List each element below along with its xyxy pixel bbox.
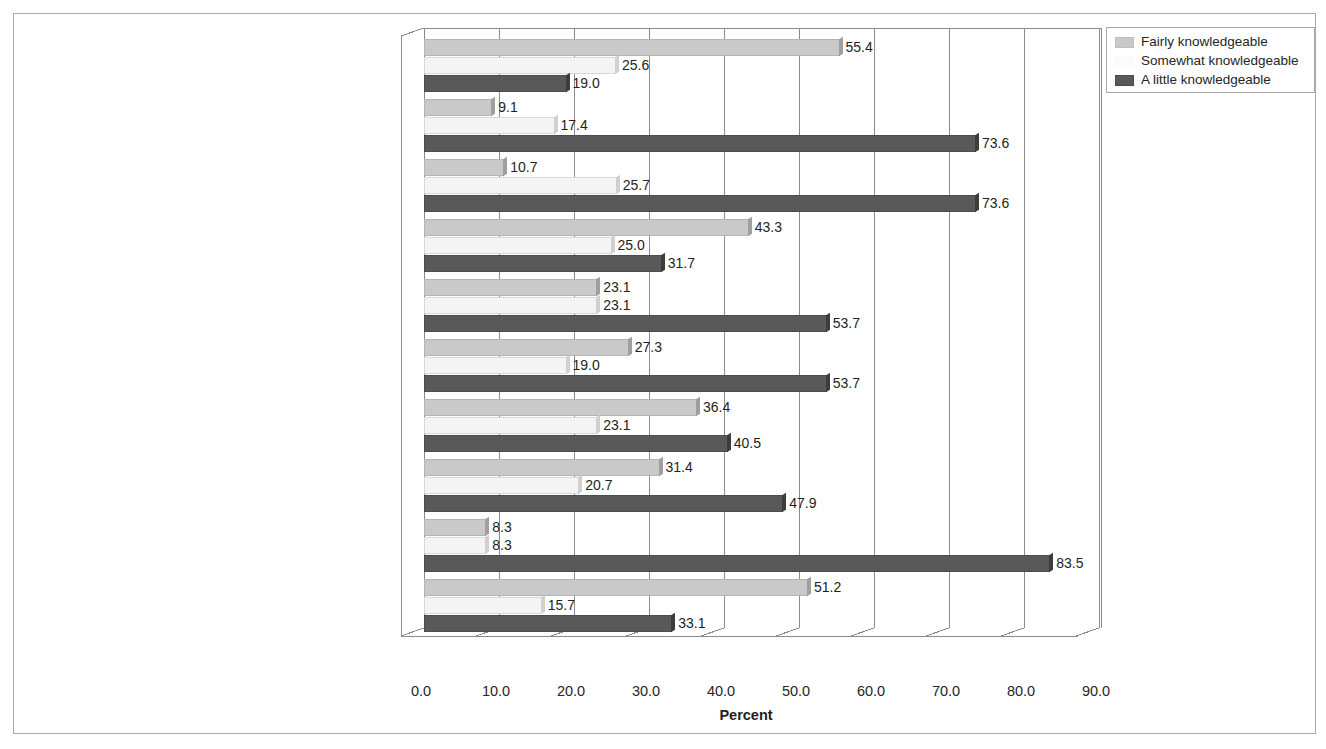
chart-area: 55.425.619.09.117.473.610.725.773.643.32… — [14, 14, 1317, 735]
bar-value-label: 43.3 — [755, 218, 782, 236]
x-axis-title: Percent — [401, 707, 1091, 723]
bar-1 — [424, 417, 597, 434]
bar-value-label: 17.4 — [561, 116, 588, 134]
legend-label: Fairly knowledgeable — [1141, 34, 1268, 50]
bar-0 — [424, 579, 808, 596]
bar-end-cap — [596, 415, 600, 434]
bar-1 — [424, 477, 579, 494]
bar-end-cap — [615, 55, 619, 74]
x-tick-label: 20.0 — [541, 682, 601, 700]
bar-group: 36.423.140.5 — [424, 396, 1101, 456]
bar-2 — [424, 255, 662, 272]
bar-1 — [424, 357, 567, 374]
bar-1 — [424, 57, 616, 74]
bar-group: 10.725.773.6 — [424, 156, 1101, 216]
bar-value-label: 23.1 — [603, 278, 630, 296]
bar-value-label: 9.1 — [498, 98, 517, 116]
bar-value-label: 36.4 — [703, 398, 730, 416]
bars-layer: 55.425.619.09.117.473.610.725.773.643.32… — [424, 36, 1101, 636]
bar-2 — [424, 375, 827, 392]
bar-end-cap — [727, 433, 731, 452]
bar-end-cap — [485, 535, 489, 554]
bar-0 — [424, 219, 749, 236]
bar-end-cap — [826, 373, 830, 392]
bar-end-cap — [596, 295, 600, 314]
bar-value-label: 53.7 — [833, 374, 860, 392]
bar-end-cap — [616, 175, 620, 194]
bar-end-cap — [1049, 553, 1053, 572]
x-tick-label: 40.0 — [691, 682, 751, 700]
bar-value-label: 31.7 — [668, 254, 695, 272]
bar-value-label: 55.4 — [846, 38, 873, 56]
legend-item: Somewhat knowledgeable — [1115, 52, 1314, 70]
bar-2 — [424, 195, 976, 212]
bar-end-cap — [566, 355, 570, 374]
bar-group: 31.420.747.9 — [424, 456, 1101, 516]
bar-end-cap — [975, 193, 979, 212]
bar-end-cap — [782, 493, 786, 512]
bar-end-cap — [554, 115, 558, 134]
bar-1 — [424, 177, 617, 194]
x-tick-label: 70.0 — [916, 682, 976, 700]
bar-group: 43.325.031.7 — [424, 216, 1101, 276]
bar-value-label: 47.9 — [789, 494, 816, 512]
bar-value-label: 10.7 — [510, 158, 537, 176]
bar-value-label: 40.5 — [734, 434, 761, 452]
bar-2 — [424, 315, 827, 332]
bar-value-label: 51.2 — [814, 578, 841, 596]
bar-1 — [424, 297, 597, 314]
bar-end-cap — [748, 217, 752, 236]
bar-end-cap — [578, 475, 582, 494]
legend-swatch-somewhat-icon — [1115, 56, 1134, 67]
x-tick-label: 10.0 — [466, 682, 526, 700]
bar-end-cap — [826, 313, 830, 332]
bar-end-cap — [485, 517, 489, 536]
bar-0 — [424, 99, 492, 116]
bar-value-label: 25.0 — [618, 236, 645, 254]
bar-value-label: 25.7 — [623, 176, 650, 194]
bar-value-label: 8.3 — [492, 518, 511, 536]
bar-0 — [424, 399, 697, 416]
bar-0 — [424, 159, 504, 176]
legend-label: A little knowledgeable — [1141, 72, 1271, 88]
bar-value-label: 25.6 — [622, 56, 649, 74]
bar-end-cap — [671, 613, 675, 632]
bar-value-label: 15.7 — [548, 596, 575, 614]
bar-group: 55.425.619.0 — [424, 36, 1101, 96]
legend-swatch-fairly-icon — [1115, 37, 1134, 48]
bar-0 — [424, 279, 597, 296]
bar-2 — [424, 615, 672, 632]
bar-value-label: 19.0 — [573, 74, 600, 92]
category-axis — [14, 28, 394, 628]
x-tick-label: 90.0 — [1066, 682, 1126, 700]
bar-end-cap — [696, 397, 700, 416]
bar-end-cap — [503, 157, 507, 176]
bar-1 — [424, 237, 612, 254]
bar-1 — [424, 537, 486, 554]
bar-end-cap — [541, 595, 545, 614]
bar-value-label: 23.1 — [603, 416, 630, 434]
legend-swatch-a-little-icon — [1115, 75, 1134, 86]
bar-end-cap — [659, 457, 663, 476]
bar-value-label: 23.1 — [603, 296, 630, 314]
bar-2 — [424, 435, 728, 452]
bar-end-cap — [975, 133, 979, 152]
bar-value-label: 19.0 — [573, 356, 600, 374]
bar-end-cap — [611, 235, 615, 254]
bar-end-cap — [596, 277, 600, 296]
x-tick-label: 0.0 — [391, 682, 451, 700]
legend-item: A little knowledgeable — [1115, 71, 1314, 89]
bar-group: 27.319.053.7 — [424, 336, 1101, 396]
figure-frame: 55.425.619.09.117.473.610.725.773.643.32… — [13, 13, 1316, 734]
bar-value-label: 20.7 — [585, 476, 612, 494]
bar-value-label: 31.4 — [666, 458, 693, 476]
bar-2 — [424, 75, 567, 92]
bar-0 — [424, 519, 486, 536]
x-tick-label: 60.0 — [841, 682, 901, 700]
bar-1 — [424, 117, 555, 134]
legend-label: Somewhat knowledgeable — [1141, 53, 1299, 69]
bar-1 — [424, 597, 542, 614]
bar-value-label: 27.3 — [635, 338, 662, 356]
x-tick-label: 80.0 — [991, 682, 1051, 700]
plot-region: 55.425.619.09.117.473.610.725.773.643.32… — [401, 28, 1101, 676]
